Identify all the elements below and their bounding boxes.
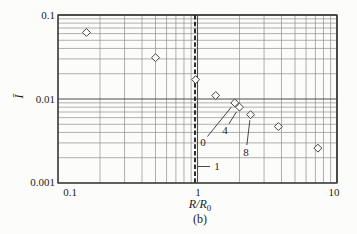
diamond-marker — [152, 54, 160, 62]
x-tick-label-10: 10 — [318, 186, 350, 198]
reference-line-label: 1 — [214, 161, 220, 172]
data-point-diamond — [152, 54, 160, 62]
diamond-marker — [192, 76, 200, 84]
x-axis-title-main: R/R — [189, 197, 207, 211]
data-point-diamond — [83, 28, 91, 36]
figure-caption: (b) — [168, 212, 232, 227]
y-tick-label-0.001: 0.001 — [0, 176, 55, 188]
data-point-diamond — [212, 92, 220, 100]
log-log-scatter-figure: 0.1 0.01 0.001 0.1 1 10 Ī R/R0 (b) 0 4 8… — [0, 0, 357, 234]
diamond-marker — [83, 28, 91, 36]
x-tick-label-0.1: 0.1 — [54, 186, 86, 198]
data-point-diamond — [192, 76, 200, 84]
annotation-label-8: 8 — [243, 147, 249, 158]
diamond-marker — [212, 92, 220, 100]
y-tick-label-0.01: 0.01 — [0, 93, 55, 105]
x-axis-title: R/R0 — [168, 197, 232, 213]
annotation-label-4: 4 — [222, 125, 228, 136]
annotation-label-0: 0 — [200, 137, 206, 148]
y-axis-title: Ī — [12, 86, 27, 108]
y-tick-label-0.1: 0.1 — [0, 9, 55, 21]
